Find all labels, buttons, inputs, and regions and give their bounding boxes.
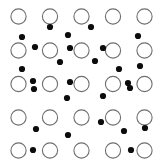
filled-dot-marker (30, 147, 36, 153)
filled-dot-marker (30, 78, 36, 84)
filled-dot-marker (142, 125, 148, 131)
filled-dot-marker (88, 24, 94, 30)
filled-dot-marker (100, 45, 106, 51)
open-circle-marker (137, 9, 152, 24)
open-circle-marker (137, 143, 152, 158)
filled-dot-marker (65, 32, 71, 38)
filled-dot-marker (137, 63, 143, 69)
open-circle-marker (42, 76, 57, 91)
filled-dot-marker (65, 132, 71, 138)
open-circle-marker (74, 9, 89, 24)
filled-dot-marker (31, 86, 37, 92)
filled-dot-marker (128, 147, 134, 153)
open-circle-marker (74, 143, 89, 158)
filled-dot-marker (98, 119, 104, 125)
open-circle-marker (74, 76, 89, 91)
open-circle-marker (105, 9, 120, 24)
filled-dot-marker (32, 44, 38, 50)
stimulus-figure (0, 0, 164, 167)
filled-dot-marker (57, 59, 63, 65)
filled-dot-marker (47, 24, 53, 30)
figure-canvas (0, 0, 164, 167)
open-circle-marker (137, 76, 152, 91)
filled-dot-marker (19, 66, 25, 72)
filled-dot-marker (135, 33, 141, 39)
filled-dot-marker (116, 66, 122, 72)
filled-dot-marker (67, 45, 73, 51)
open-circle-marker (105, 76, 120, 91)
open-circle-marker (42, 110, 57, 125)
open-circle-marker (105, 110, 120, 125)
filled-dot-marker (121, 128, 127, 134)
open-circle-marker (137, 43, 152, 58)
open-circle-marker (42, 143, 57, 158)
filled-dot-marker (67, 79, 73, 85)
open-circle-marker (11, 9, 26, 24)
open-circle-marker (105, 143, 120, 158)
open-circle-marker (42, 43, 57, 58)
filled-dot-marker (92, 58, 98, 64)
open-circle-marker (105, 43, 120, 58)
open-circle-marker (137, 110, 152, 125)
filled-dot-marker (33, 126, 39, 132)
open-circle-marker (42, 9, 57, 24)
open-circle-marker (74, 43, 89, 58)
filled-dot-marker (64, 95, 70, 101)
open-circle-marker (11, 76, 26, 91)
filled-dot-marker (127, 85, 133, 91)
open-circle-marker (11, 143, 26, 158)
open-circle-marker (11, 110, 26, 125)
filled-dot-marker (100, 93, 106, 99)
open-circle-marker (11, 43, 26, 58)
open-circle-marker (74, 110, 89, 125)
filled-dot-marker (19, 34, 25, 40)
